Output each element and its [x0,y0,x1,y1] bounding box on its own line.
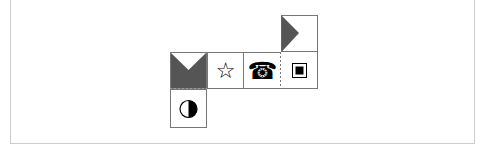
face-row-2: ☆ [207,52,244,89]
star-icon: ☆ [207,52,244,89]
face-row-3: ☎ [244,52,281,89]
telephone-icon: ☎ [244,52,281,89]
half-circle-icon [170,89,207,128]
face-bottom-left [170,89,207,128]
right-pointing-triangle-icon [281,15,318,52]
square-icon [281,52,318,89]
face-row-1 [170,52,207,89]
notch-icon [170,52,207,89]
face-top-right [281,15,318,52]
face-row-4 [281,52,318,89]
